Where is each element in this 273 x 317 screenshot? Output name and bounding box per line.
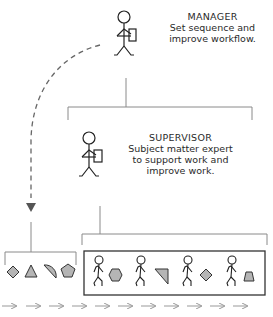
half-circle-icon	[44, 265, 56, 278]
diamond-icon	[7, 266, 19, 278]
manager-label: MANAGER Set sequence and improve workflo…	[155, 11, 270, 44]
worker-figure-icon	[94, 256, 103, 286]
supervisor-description-line: to support work and	[118, 154, 243, 165]
pentagon-icon	[61, 264, 75, 277]
diamond-icon	[200, 269, 212, 281]
manager-description-line: Set sequence and	[155, 22, 270, 33]
supervisor-title: SUPERVISOR	[118, 132, 243, 143]
hexagon-icon	[109, 269, 122, 281]
worker-1	[94, 256, 122, 286]
arrow-down-icon	[26, 203, 36, 212]
right-triangle-icon	[155, 269, 168, 284]
dashed-arrow	[26, 45, 100, 212]
manager-figure-icon	[114, 11, 136, 55]
supervisor-label: SUPERVISOR Subject matter expert to supp…	[118, 132, 243, 176]
supervisor-connector	[82, 206, 267, 245]
worker-2	[136, 256, 168, 286]
manager-description-line: improve workflow.	[155, 33, 270, 44]
manager-connector	[68, 78, 252, 120]
worker-4	[227, 256, 254, 286]
manager-title: MANAGER	[155, 11, 270, 22]
left-group-bracket	[5, 222, 76, 265]
triangle-icon	[25, 265, 37, 277]
supervisor-description-line: Subject matter expert	[118, 143, 243, 154]
left-group-shapes	[7, 264, 75, 278]
worker-figure-icon	[183, 256, 192, 286]
supervisor-description-line: improve work.	[118, 165, 243, 176]
trapezoid-icon	[244, 272, 254, 281]
worker-figure-icon	[136, 256, 145, 286]
supervisor-figure-icon	[79, 132, 102, 176]
worker-3	[183, 256, 212, 286]
worker-figure-icon	[227, 256, 236, 286]
